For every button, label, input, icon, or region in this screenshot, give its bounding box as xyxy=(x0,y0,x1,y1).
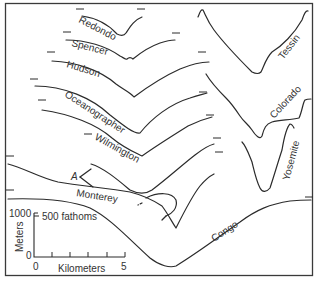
label-annotation-a: A xyxy=(70,171,78,182)
profile-yosemite: Yosemite xyxy=(242,124,302,191)
scale-horizontal-left: 0 xyxy=(33,261,39,272)
profile-colorado: Colorado xyxy=(206,74,311,138)
canyon-profiles-svg: Redondo Spencer Hudson Oceanographer Wil… xyxy=(0,0,319,282)
figure-frame xyxy=(6,4,313,276)
profile-redondo: Redondo xyxy=(76,9,145,42)
profile-wilmington: Wilmington xyxy=(38,100,214,165)
scale-bar: 1000 0 500 fathoms Meters 0 Kilometers 5 xyxy=(9,208,127,274)
scale-vertical-label: Meters xyxy=(14,221,25,252)
label-yosemite: Yosemite xyxy=(280,139,301,182)
label-oceanographer: Oceanographer xyxy=(63,88,128,135)
label-colorado: Colorado xyxy=(267,83,303,121)
scale-horizontal-right: 5 xyxy=(121,261,127,272)
profile-spencer: Spencer xyxy=(63,32,180,59)
profile-congo: Congo xyxy=(8,197,313,267)
label-wilmington: Wilmington xyxy=(93,131,142,165)
profile-tessin: Tessin xyxy=(198,10,308,74)
label-spencer: Spencer xyxy=(71,37,110,57)
scale-fathoms-label: 500 fathoms xyxy=(42,211,97,222)
scale-vertical-bottom: 0 xyxy=(26,250,32,261)
label-redondo: Redondo xyxy=(77,14,119,42)
label-congo: Congo xyxy=(209,218,240,244)
scale-horizontal-label: Kilometers xyxy=(58,263,105,274)
label-hudson: Hudson xyxy=(65,58,101,79)
scale-vertical-top: 1000 xyxy=(9,208,32,219)
canyon-profiles-figure: Redondo Spencer Hudson Oceanographer Wil… xyxy=(0,0,319,282)
profile-oceanographer: Oceanographer xyxy=(30,79,207,136)
